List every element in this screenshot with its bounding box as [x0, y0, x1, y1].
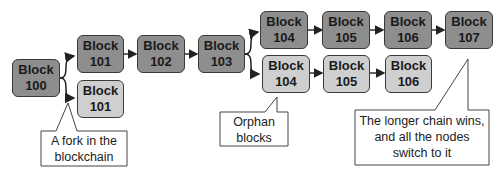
block-label: Block [83, 83, 118, 99]
callout-line: blocks [220, 130, 288, 146]
block-number: 102 [150, 54, 172, 70]
block-number: 106 [398, 74, 420, 90]
callout-longer-chain: The longer chain wins, and all the nodes… [355, 113, 489, 161]
block-label: Block [18, 62, 53, 78]
block-102: Block 102 [137, 35, 185, 73]
callout-line: and all the nodes [355, 129, 489, 145]
block-103: Block 103 [198, 35, 245, 73]
block-106-main: Block 106 [384, 11, 432, 49]
block-number: 107 [458, 30, 480, 46]
callout-line: Orphan [220, 114, 288, 130]
block-number: 105 [335, 30, 357, 46]
block-107: Block 107 [445, 11, 493, 49]
block-label: Block [266, 14, 301, 30]
callout-line: switch to it [355, 145, 489, 161]
block-106-orphan: Block 106 [385, 55, 432, 93]
block-label: Block [268, 58, 303, 74]
callout-line: The longer chain wins, [355, 113, 489, 129]
callout-line: blockchain [41, 149, 127, 165]
block-104-orphan: Block 104 [262, 55, 310, 93]
block-label: Block [390, 14, 425, 30]
block-100: Block 100 [12, 59, 60, 97]
block-number: 104 [273, 30, 295, 46]
blockchain-fork-diagram: Block 100 Block 101 Block 101 Block 102 … [0, 0, 504, 174]
block-label: Block [143, 38, 178, 54]
block-label: Block [83, 38, 118, 54]
block-label: Block [391, 58, 426, 74]
block-104-main: Block 104 [260, 11, 308, 49]
block-number: 104 [275, 74, 297, 90]
block-101-orphan: Block 101 [77, 80, 124, 118]
block-105-orphan: Block 105 [323, 55, 370, 93]
block-label: Block [329, 58, 364, 74]
block-number: 103 [211, 54, 233, 70]
block-number: 101 [90, 99, 112, 115]
block-number: 100 [25, 78, 47, 94]
fork-brace-103 [245, 32, 259, 74]
callout-line: A fork in the [41, 133, 127, 149]
block-label: Block [204, 38, 239, 54]
block-105-main: Block 105 [322, 11, 370, 49]
block-label: Block [328, 14, 363, 30]
fork-brace-100 [60, 56, 74, 98]
block-number: 105 [336, 74, 358, 90]
block-101-main: Block 101 [77, 35, 124, 73]
callout-fork: A fork in the blockchain [41, 133, 127, 165]
block-number: 101 [90, 54, 112, 70]
block-label: Block [451, 14, 486, 30]
block-number: 106 [397, 30, 419, 46]
callout-orphan: Orphan blocks [220, 114, 288, 146]
